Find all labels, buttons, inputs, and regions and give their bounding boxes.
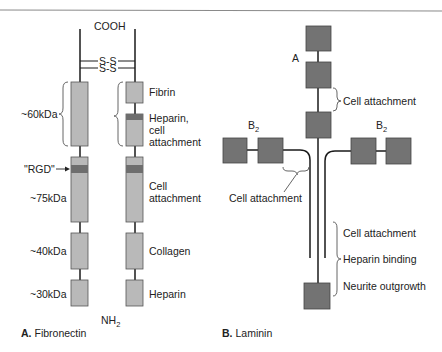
- label-heparin: Heparin: [149, 288, 186, 300]
- rgd-label: "RGD": [24, 163, 55, 175]
- label-cell-attachment-1: Cell: [149, 180, 167, 192]
- leader-left-cell-attachment: [284, 175, 296, 192]
- label-75kda: ~75kDa: [30, 192, 67, 204]
- fn-left-box-30kda: [71, 280, 88, 306]
- label-30kda: ~30kDa: [30, 288, 67, 300]
- laminin-left-annotation: Cell attachment: [229, 192, 302, 204]
- laminin-diagram: A B2 B2 Cell attachment Cell attachment …: [222, 26, 426, 339]
- top-rule: [0, 10, 442, 11]
- fn-right-rgd-band: [126, 165, 143, 173]
- laminin-upper-annotation: Cell attachment: [343, 95, 416, 107]
- laminin-a-box-2: [306, 62, 331, 88]
- label-40kda: ~40kDa: [30, 245, 67, 257]
- disulfide-label-2: S-S: [99, 62, 117, 74]
- fn-right-box-fibrin: [126, 82, 143, 103]
- laminin-a-box-3: [306, 112, 331, 138]
- laminin-b2-right-box-2: [386, 138, 411, 164]
- laminin-lower-annotation-2: Heparin binding: [343, 253, 417, 265]
- caption-laminin: B.Laminin: [222, 327, 272, 339]
- laminin-chain-a-label: A: [292, 52, 299, 64]
- brace-fibrin-heparin: [114, 82, 123, 146]
- laminin-b2-right-label: B2: [376, 119, 387, 134]
- laminin-lower-annotation-1: Cell attachment: [343, 227, 416, 239]
- fn-right-box-collagen: [126, 233, 143, 269]
- brace-upper-cell-attachment: [333, 88, 341, 111]
- fn-left-box-40kda: [71, 233, 88, 269]
- label-heparin-cell-2: cell: [149, 124, 165, 136]
- brace-lower-domains: [333, 222, 341, 296]
- label-heparin-cell-3: attachment: [149, 136, 201, 148]
- rgd-arrowhead-icon: [65, 167, 70, 172]
- brace-60kda: [59, 82, 68, 146]
- label-heparin-cell-1: Heparin,: [149, 112, 189, 124]
- label-collagen: Collagen: [149, 245, 191, 257]
- laminin-chain-b2-left: [283, 150, 310, 258]
- nh2-label: NH2: [101, 314, 120, 329]
- fn-right-heparin-band: [126, 114, 143, 120]
- laminin-b2-right-box-1: [351, 138, 376, 164]
- laminin-a-box-bottom: [304, 283, 330, 309]
- laminin-b2-left-box-1: [223, 138, 247, 163]
- caption-fibronectin: A.Fibronectin: [21, 327, 87, 339]
- laminin-lower-annotation-3: Neurite outgrowth: [343, 280, 426, 292]
- laminin-chain-b2-right: [325, 151, 351, 258]
- laminin-a-box-1: [306, 26, 331, 51]
- fibronectin-diagram: COOH S-S S-S ~60kDa "RGD" ~75: [21, 20, 201, 339]
- fn-right-box-heparin: [126, 280, 143, 306]
- label-60kda: ~60kDa: [21, 108, 58, 120]
- label-fibrin: Fibrin: [149, 86, 175, 98]
- fn-left-rgd-band: [71, 165, 88, 173]
- label-cell-attachment-2: attachment: [149, 192, 201, 204]
- brace-left-cell-attachment: [283, 167, 309, 175]
- diagram-canvas: COOH S-S S-S ~60kDa "RGD" ~75: [0, 0, 442, 352]
- laminin-b2-left-label: B2: [248, 119, 259, 134]
- laminin-b2-left-box-2: [258, 138, 283, 163]
- cooh-label: COOH: [94, 20, 126, 32]
- fn-left-box-60kda: [71, 82, 88, 146]
